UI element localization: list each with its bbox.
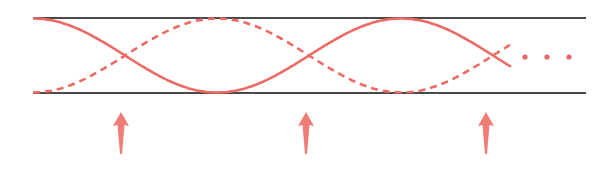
node-arrow-up-icon <box>298 112 314 154</box>
node-arrow-up-icon <box>113 112 129 154</box>
ellipsis-dot <box>566 54 571 59</box>
dashed-wave <box>33 19 513 93</box>
ellipsis-dot <box>544 54 549 59</box>
standing-wave-diagram <box>0 0 612 169</box>
node-arrow-up-icon <box>478 112 494 154</box>
ellipsis-dot <box>522 54 527 59</box>
solid-wave <box>33 19 511 93</box>
